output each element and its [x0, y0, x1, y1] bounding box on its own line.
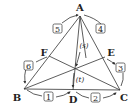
vertex-label-f: F — [40, 47, 47, 58]
arrow-2b — [103, 93, 116, 98]
arrow-4 — [84, 15, 101, 24]
arrow-2 — [76, 92, 89, 98]
arrow-3 — [107, 59, 115, 64]
param-s-label: (s) — [79, 42, 88, 50]
triangle-abc — [24, 16, 120, 90]
vertex-label-d: D — [69, 94, 78, 105]
param-t-label: (t) — [76, 76, 85, 84]
cevian-cf — [49, 56, 120, 90]
vertex-label-e: E — [107, 47, 115, 58]
box-4-label: 4 — [98, 25, 103, 34]
vertex-label-a: A — [75, 2, 84, 13]
box-5-label: 5 — [55, 25, 60, 34]
vertex-label-b: B — [13, 92, 21, 103]
box-1-label: 1 — [46, 93, 51, 102]
triangle-diagram: 1 2 3 4 5 6 A B C D E F (s) (t) — [0, 0, 138, 110]
arrow-1 — [27, 90, 42, 96]
box-2-label: 2 — [93, 94, 98, 103]
vertex-label-c: C — [120, 92, 128, 103]
diagram-canvas: 1 2 3 4 5 6 A B C D E F (s) (t) — [0, 0, 138, 110]
box-3-label: 3 — [118, 64, 123, 73]
box-6-label: 6 — [26, 62, 31, 71]
arrow-3b — [121, 73, 123, 86]
